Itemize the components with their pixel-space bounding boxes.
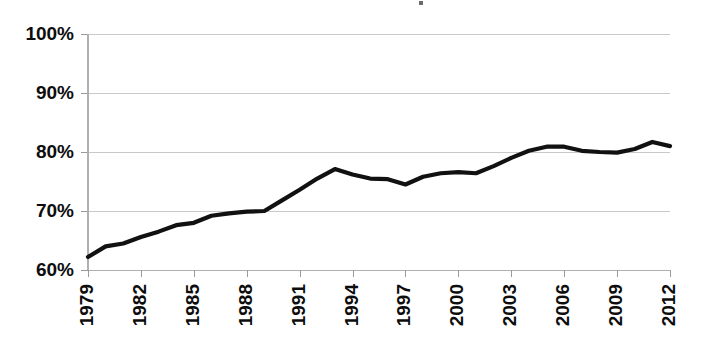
- y-axis-label-80%: 80%: [36, 141, 74, 162]
- y-axis-label-60%: 60%: [36, 259, 74, 280]
- y-axis-label-90%: 90%: [36, 82, 74, 103]
- y-axis-label-70%: 70%: [36, 200, 74, 221]
- x-axis-label-2012: 2012: [658, 284, 679, 326]
- x-axis-label-1994: 1994: [341, 284, 362, 327]
- cropped-title-fragment: [419, 1, 423, 5]
- x-axis-label-2003: 2003: [499, 284, 520, 326]
- x-axis-label-2006: 2006: [552, 284, 573, 326]
- x-axis-label-1985: 1985: [182, 284, 203, 327]
- x-axis-label-1982: 1982: [129, 284, 150, 326]
- x-axis-label-2000: 2000: [446, 284, 467, 326]
- x-axis-label-2009: 2009: [605, 284, 626, 326]
- y-axis-label-100%: 100%: [25, 23, 74, 44]
- x-axis-label-1988: 1988: [235, 284, 256, 326]
- x-axis-label-1991: 1991: [288, 284, 309, 327]
- x-axis-label-1997: 1997: [393, 284, 414, 326]
- chart-canvas: 100%90%80%70%60% 19791982198519881991199…: [0, 0, 702, 362]
- x-axis-label-1979: 1979: [76, 284, 97, 326]
- line-chart-figure: 100%90%80%70%60% 19791982198519881991199…: [0, 0, 702, 362]
